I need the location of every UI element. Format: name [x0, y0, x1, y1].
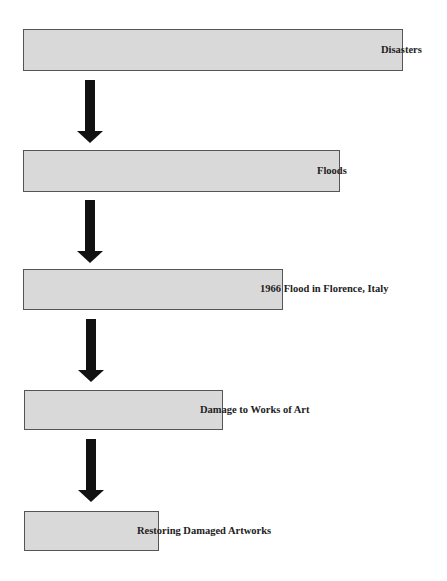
node-florence-flood-box [23, 269, 283, 310]
node-floods-label: Floods [317, 165, 347, 177]
arrow-down-icon [78, 439, 104, 502]
node-damage-art-label: Damage to Works of Art [200, 404, 309, 416]
node-florence-flood-label: 1966 Flood in Florence, Italy [260, 283, 388, 295]
node-restoring-label: Restoring Damaged Artworks [137, 525, 271, 537]
node-floods-box [23, 150, 340, 192]
arrow-down-icon [77, 200, 103, 263]
arrow-down-icon [77, 80, 103, 143]
arrow-down-icon [78, 319, 104, 382]
node-damage-art-box [24, 390, 223, 430]
node-disasters-label: Disasters [381, 44, 422, 56]
node-disasters-box [23, 29, 403, 71]
